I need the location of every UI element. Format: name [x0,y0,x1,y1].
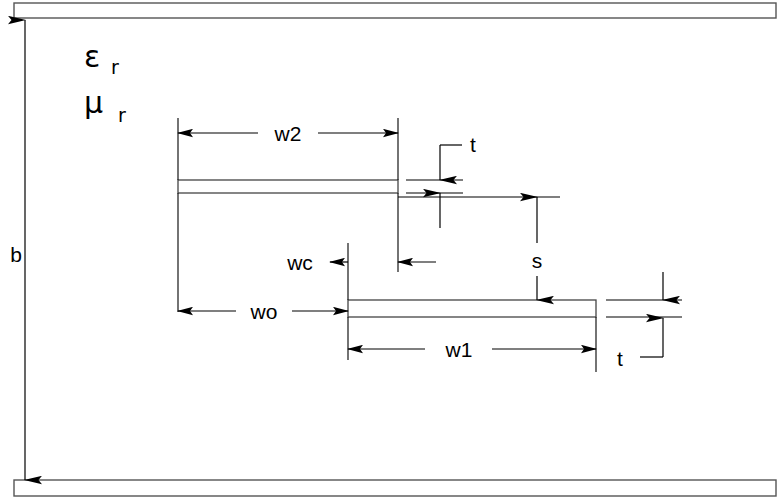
dimension-w1: w1 [348,338,596,361]
dimension-b: b [10,20,25,480]
epsilon-subscript: r [111,56,119,78]
dimension-wo: wo [178,300,348,323]
material-label-mu-r: μ r [84,85,126,126]
dimension-label-t-lower: t [617,347,623,370]
top-ground-plate [14,3,776,18]
dimension-w2: w2 [178,122,398,145]
dimension-label-wo: wo [250,300,278,323]
dimension-t-upper: t [406,133,476,228]
mu-symbol: μ [84,85,103,120]
dimension-label-s: s [532,249,543,272]
dimension-wc: wc [286,251,436,274]
dimension-s: s [398,197,560,300]
dimension-label-wc: wc [286,251,313,274]
material-label-epsilon-r: ε r [84,39,119,78]
extension-lines-upper-strip [178,118,398,312]
dimension-label-w2: w2 [274,122,302,145]
stripline-cross-section-diagram: b ε r μ r w2 [0,0,782,502]
mu-subscript: r [118,104,126,126]
dimension-label-t-upper: t [470,133,476,156]
lower-conductor-strip [348,300,596,317]
bottom-ground-plate [14,480,776,496]
upper-conductor-strip [178,180,398,193]
dimension-label-b: b [10,243,22,266]
dimension-t-lower: t [606,272,682,370]
diagram-canvas: b ε r μ r w2 [0,0,782,502]
dimension-label-w1: w1 [445,338,473,361]
epsilon-symbol: ε [84,39,100,74]
